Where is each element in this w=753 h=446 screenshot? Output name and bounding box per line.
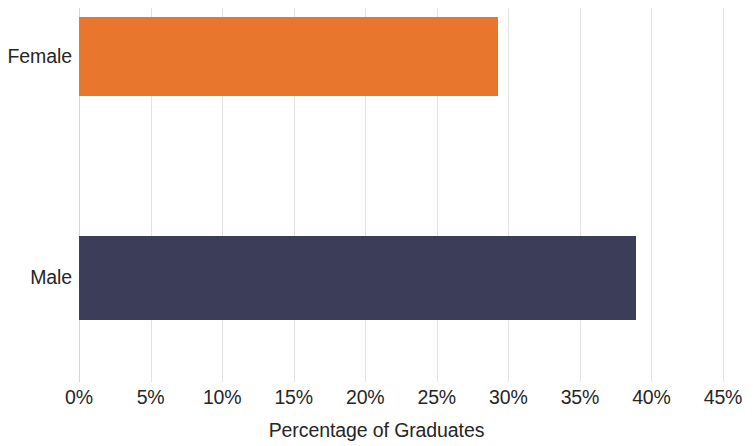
category-label-female: Female	[0, 47, 72, 67]
bar-female[interactable]	[79, 17, 498, 96]
gridline	[723, 8, 724, 382]
x-tick-label: 30%	[478, 388, 538, 408]
category-label-male: Male	[0, 268, 72, 288]
bar-male[interactable]	[79, 236, 636, 320]
x-tick-label: 20%	[335, 388, 395, 408]
x-tick-label: 5%	[121, 388, 181, 408]
x-tick-label: 35%	[550, 388, 610, 408]
plot-area	[79, 8, 723, 382]
gridline	[508, 8, 509, 382]
x-tick-label: 40%	[621, 388, 681, 408]
bar-chart: Female Male 0%5%10%15%20%25%30%35%40%45%…	[0, 0, 753, 446]
x-axis-title: Percentage of Graduates	[0, 421, 753, 441]
x-tick-label: 25%	[407, 388, 467, 408]
x-tick-label: 0%	[49, 388, 109, 408]
x-tick-label: 45%	[693, 388, 753, 408]
gridline	[580, 8, 581, 382]
x-tick-label: 10%	[192, 388, 252, 408]
x-tick-label: 15%	[264, 388, 324, 408]
gridline	[651, 8, 652, 382]
